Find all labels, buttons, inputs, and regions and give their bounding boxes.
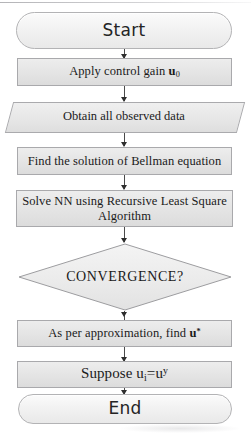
node-start[interactable]: Start	[16, 12, 232, 49]
approximation-superscript: *	[197, 327, 201, 336]
approximation-variable: u	[189, 326, 196, 340]
suppose-superscript-2: y	[163, 365, 168, 376]
apply-gain-variable: u	[169, 64, 176, 78]
node-end[interactable]: End	[18, 394, 232, 424]
node-suppose-label: Suppose ui=uy	[77, 365, 172, 383]
node-approximation-label: As per approximation, find u*	[44, 326, 205, 340]
node-bellman-equation-label: Find the solution of Bellman equation	[24, 154, 226, 168]
flowchart-canvas: Start Apply control gain u0 Obtain all o…	[0, 0, 251, 435]
node-obtain-observed-data-label: Obtain all observed data	[59, 109, 189, 123]
node-apply-control-gain[interactable]: Apply control gain u0	[17, 58, 232, 86]
node-solve-nn-rls[interactable]: Solve NN using Recursive Least Square Al…	[16, 190, 233, 227]
edge-convergence-to-approximation-arrowhead	[121, 312, 127, 317]
node-start-label: Start	[98, 21, 149, 41]
node-convergence-decision-label: CONVERGENCE?	[62, 269, 188, 285]
scan-artifact-smudge	[120, 424, 240, 433]
apply-gain-subscript: 0	[176, 70, 180, 79]
node-bellman-equation[interactable]: Find the solution of Bellman equation	[17, 147, 232, 175]
suppose-variable-2: u	[155, 366, 163, 382]
node-obtain-observed-data[interactable]: Obtain all observed data	[9, 102, 239, 131]
node-approximation[interactable]: As per approximation, find u*	[17, 320, 232, 347]
apply-gain-text: Apply control gain	[69, 64, 168, 78]
scan-artifact-line	[0, 2, 251, 3]
suppose-text: Suppose	[81, 366, 136, 382]
node-suppose[interactable]: Suppose ui=uy	[17, 361, 232, 388]
approximation-text: As per approximation, find	[48, 326, 189, 340]
node-apply-control-gain-label: Apply control gain u0	[65, 64, 184, 80]
node-solve-nn-rls-label-line1: Solve NN using Recursive Least Square	[20, 194, 229, 208]
node-solve-nn-rls-label-line2: Algorithm	[94, 209, 155, 223]
suppose-variable-1: u	[136, 366, 144, 382]
node-end-label: End	[104, 399, 145, 419]
node-convergence-decision[interactable]: CONVERGENCE?	[18, 243, 232, 311]
